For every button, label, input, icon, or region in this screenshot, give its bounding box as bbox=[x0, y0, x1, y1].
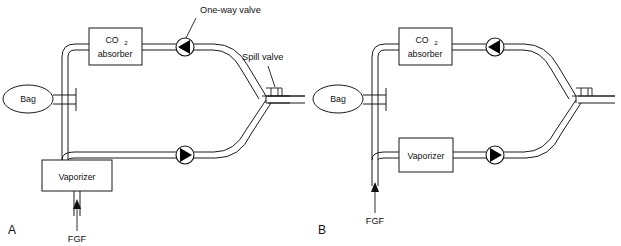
co2-absorber-label-line2: absorber bbox=[408, 49, 443, 59]
panel-b-lower-valve-to-y-tube bbox=[504, 100, 581, 158]
panel-b: Bag CO 2 absorber Vaporizer FGF bbox=[313, 28, 615, 237]
panel-a-patient-outlet-tube bbox=[266, 96, 305, 103]
one-way-valve-label: One-way valve bbox=[200, 5, 261, 15]
panel-b-lower-limb-tube bbox=[372, 152, 399, 160]
panel-a-absorber-to-valve-tube bbox=[142, 44, 176, 50]
panel-a-spill-valve bbox=[262, 88, 305, 96]
panel-b-letter: B bbox=[318, 223, 326, 237]
panel-a-inspiratory-one-way-valve bbox=[176, 38, 194, 56]
fgf-label: FGF bbox=[366, 216, 385, 226]
co2-absorber-label-line1: CO bbox=[415, 35, 428, 45]
panel-b-absorber-to-valve-tube bbox=[452, 44, 486, 50]
panel-a-letter: A bbox=[8, 223, 16, 237]
panel-a-bag: Bag bbox=[3, 85, 53, 113]
co2-absorber-label-line2: absorber bbox=[98, 49, 133, 59]
panel-b-patient-outlet-tube bbox=[576, 96, 615, 103]
panel-b-bag: Bag bbox=[313, 85, 363, 113]
panel-a-fgf-inlet: FGF bbox=[68, 191, 87, 244]
panel-a-lower-valve-to-y-tube bbox=[194, 100, 271, 158]
panel-a: Bag CO 2 absorber Vaporizer FGF bbox=[3, 5, 305, 244]
panel-b-valve-to-y-tube bbox=[504, 44, 576, 99]
fgf-label: FGF bbox=[68, 234, 87, 244]
panel-a-vaporizer: Vaporizer bbox=[42, 160, 112, 191]
panel-a-expiratory-one-way-valve bbox=[176, 146, 194, 164]
figure-canvas: Bag CO 2 absorber Vaporizer FGF bbox=[0, 0, 621, 246]
panel-b-co2-absorber: CO 2 absorber bbox=[399, 28, 452, 65]
panel-a-lower-limb-tube bbox=[62, 152, 176, 160]
co2-absorber-label-subscript: 2 bbox=[434, 39, 438, 46]
co2-absorber-label-subscript: 2 bbox=[124, 39, 128, 46]
panel-b-bag-connector bbox=[363, 88, 386, 111]
panel-b-expiratory-one-way-valve bbox=[486, 146, 504, 164]
panel-b-vaporizer: Vaporizer bbox=[399, 138, 453, 172]
panel-b-inspiratory-one-way-valve bbox=[486, 38, 504, 56]
vaporizer-label: Vaporizer bbox=[59, 172, 96, 182]
panel-a-one-way-valve-callout: One-way valve bbox=[186, 5, 261, 38]
bag-label: Bag bbox=[20, 94, 36, 104]
vaporizer-label: Vaporizer bbox=[408, 151, 445, 161]
bag-label: Bag bbox=[330, 94, 346, 104]
panel-b-fgf-inlet: FGF bbox=[366, 160, 385, 226]
panel-a-bag-connector bbox=[53, 88, 76, 111]
panel-b-spill-valve bbox=[572, 88, 615, 96]
panel-a-co2-absorber: CO 2 absorber bbox=[89, 28, 142, 65]
circuit-diagram-svg: Bag CO 2 absorber Vaporizer FGF bbox=[0, 0, 621, 246]
spill-valve-label: Spill valve bbox=[242, 52, 283, 62]
co2-absorber-label-line1: CO bbox=[105, 35, 118, 45]
panel-b-vaporizer-to-valve-tube bbox=[452, 152, 486, 158]
